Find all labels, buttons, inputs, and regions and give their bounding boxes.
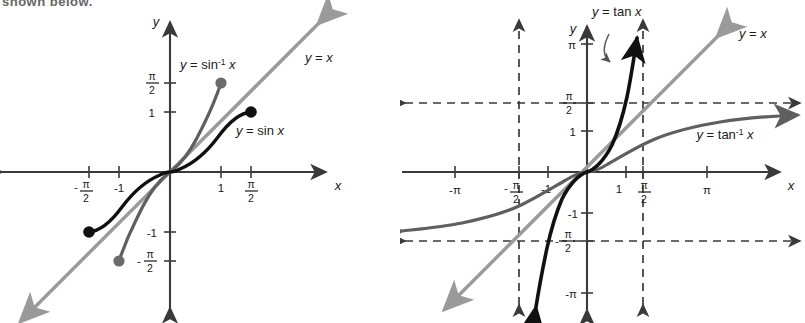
chart-tangent-arctangent: y x -π - π 2 -1 1 π 2 π π π 2 1 -1 - — [400, 0, 805, 323]
right-label-arctangent: y = tan-1 x — [695, 127, 754, 142]
left-ytick-label-pi-over-2: π 2 — [146, 70, 159, 96]
right-label-y-equals-x: y = x — [738, 26, 767, 41]
svg-text:2: 2 — [641, 193, 647, 205]
svg-text:π: π — [564, 228, 571, 240]
right-ticks — [455, 44, 707, 293]
svg-text:-: - — [137, 255, 141, 267]
right-xtick-label-pi-over-2: π 2 — [638, 179, 651, 205]
right-xtick-label-1: 1 — [616, 183, 622, 195]
right-axes — [402, 26, 780, 310]
svg-text:y = tan x: y = tan x — [591, 4, 642, 19]
left-y-axis-label: y — [152, 14, 161, 29]
svg-text:π: π — [640, 179, 647, 191]
svg-text:2: 2 — [149, 84, 155, 96]
svg-text:y = tan-1 x: y = tan-1 x — [695, 127, 754, 142]
right-ytick-label--pi: -π — [565, 288, 577, 300]
svg-text:2: 2 — [565, 242, 571, 254]
right-ytick-label--pi-over-2: - π 2 — [555, 228, 575, 254]
svg-text:-: - — [74, 181, 78, 193]
right-x-axis-label: x — [787, 178, 795, 193]
svg-text:y = sin x: y = sin x — [235, 123, 285, 138]
svg-text:π: π — [247, 178, 254, 190]
left-xtick-label--1: -1 — [114, 182, 124, 194]
svg-text:y = x: y = x — [738, 26, 767, 41]
right-ytick-label--1: -1 — [568, 208, 578, 220]
left-ytick-label--1: -1 — [147, 227, 157, 239]
right-xtick-label-pi: π — [703, 184, 711, 196]
right-ytick-label-pi: π — [568, 39, 576, 51]
svg-text:y = x: y = x — [304, 50, 333, 65]
left-xtick-label--pi-over-2: - π 2 — [74, 178, 93, 204]
svg-text:y = sin-1 x: y = sin-1 x — [179, 57, 236, 72]
svg-text:π: π — [148, 70, 155, 82]
svg-text:2: 2 — [147, 262, 153, 274]
svg-text:π: π — [512, 179, 519, 191]
left-xtick-label-1: 1 — [218, 182, 224, 194]
left-endpoint-arcsine-lower — [113, 255, 124, 266]
chart-sine-arcsine: y x - π 2 -1 1 π 2 π 2 1 -1 - π 2 — [0, 0, 400, 323]
right-xtick-label--pi-over-2: - π 2 — [504, 179, 523, 205]
svg-text:2: 2 — [566, 104, 572, 116]
svg-text:-π: -π — [449, 184, 461, 196]
svg-text:π: π — [146, 248, 153, 260]
left-x-axis-label: x — [334, 178, 342, 193]
left-ytick-label-1: 1 — [149, 107, 155, 119]
right-y-axis-label: y — [569, 21, 578, 36]
left-xtick-label-pi-over-2: π 2 — [245, 178, 258, 204]
left-label-arcsine: y = sin-1 x — [179, 57, 236, 72]
svg-text:-: - — [555, 235, 559, 247]
tan-label-pointer-arrow — [604, 34, 610, 62]
left-endpoint-arcsine-upper — [215, 77, 226, 88]
svg-text:2: 2 — [513, 193, 519, 205]
svg-text:2: 2 — [248, 192, 254, 204]
left-endpoint-sine-lower — [83, 226, 95, 238]
right-xtick-label--pi: -π — [449, 184, 461, 196]
right-ytick-label-pi-over-2: π 2 — [563, 90, 576, 116]
left-label-sine: y = sin x — [235, 123, 285, 138]
left-ytick-label--pi-over-2: - π 2 — [137, 248, 157, 274]
svg-text:π: π — [565, 90, 572, 102]
right-ytick-label-1: 1 — [570, 126, 576, 138]
left-endpoint-sine-upper — [245, 106, 257, 118]
right-label-tangent: y = tan x — [591, 4, 642, 19]
svg-text:-: - — [504, 182, 508, 194]
svg-text:π: π — [82, 178, 89, 190]
left-label-y-equals-x: y = x — [304, 50, 333, 65]
figure-root: shown below. y x — [0, 0, 805, 323]
svg-text:2: 2 — [83, 192, 89, 204]
